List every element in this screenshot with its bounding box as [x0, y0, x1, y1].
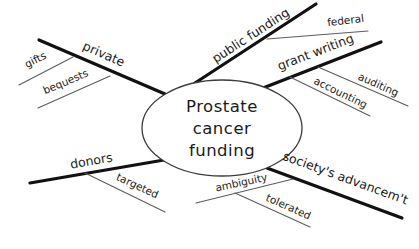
subbranch-label-targeted: targeted — [115, 170, 161, 200]
mindmap-stage: Prostate cancer funding private public f… — [0, 0, 419, 249]
branch-label-private: private — [81, 38, 128, 70]
mindmap-diagram: Prostate cancer funding private public f… — [0, 0, 419, 249]
subbranch-label-federal: federal — [326, 12, 364, 28]
subbranch-label-bequests: bequests — [41, 66, 90, 96]
central-topic-line-1: Prostate — [186, 97, 258, 116]
central-topic-line-3: funding — [189, 141, 255, 160]
subbranch-label-auditing: auditing — [357, 70, 401, 98]
subbranch-label-gifts: gifts — [22, 49, 48, 70]
central-topic-line-2: cancer — [193, 119, 252, 138]
branch-line-public-funding — [195, 4, 316, 83]
